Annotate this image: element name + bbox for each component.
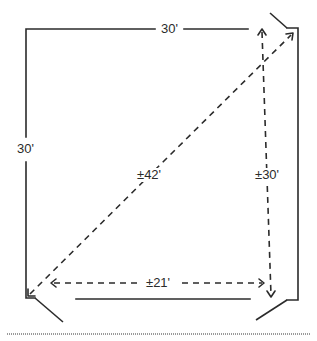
right-wall [287, 28, 298, 300]
horizontal-measure-label: ±21' [146, 276, 170, 290]
door-top-right [270, 13, 287, 28]
left-wall-label: 30' [17, 142, 34, 156]
left-wall [26, 162, 35, 298]
door-bottom-left [35, 298, 63, 322]
top-wall-label: 30' [161, 22, 178, 36]
vertical-measure-label: ±30' [255, 168, 279, 182]
vertical-dimension-arrow [258, 29, 275, 297]
diagonal-dimension-arrow [28, 33, 293, 296]
top-wall [26, 29, 248, 137]
arrowhead-icon [267, 291, 275, 297]
door-bottom-right [256, 300, 287, 320]
diagonal-measure-label: ±42' [137, 168, 161, 182]
